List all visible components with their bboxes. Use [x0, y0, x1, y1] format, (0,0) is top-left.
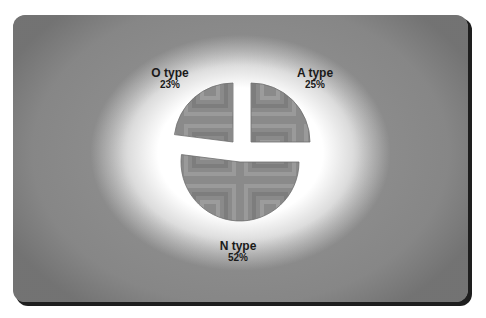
label-name: O type: [151, 67, 188, 80]
pie-slice-n-type: [181, 155, 299, 221]
label-name: N type: [220, 240, 257, 253]
slice-label-o-type: O type 23%: [151, 67, 188, 90]
label-percent: 23%: [151, 80, 188, 91]
label-name: A type: [297, 67, 333, 80]
slice-label-n-type: N type 52%: [220, 240, 257, 263]
pie-slice-o-type: [174, 83, 233, 142]
pie-slice-a-type: [251, 83, 310, 142]
label-percent: 25%: [297, 80, 333, 91]
slice-label-a-type: A type 25%: [297, 67, 333, 90]
label-percent: 52%: [220, 253, 257, 264]
pie-chart: [0, 0, 486, 318]
